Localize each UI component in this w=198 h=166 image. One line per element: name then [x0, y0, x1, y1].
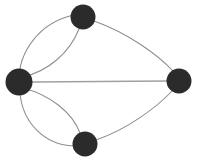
graph-edge-left-top: [22, 29, 79, 77]
graph-node-top: [71, 5, 96, 30]
graph-canvas: [0, 0, 198, 166]
graph-edge-left-bottom: [20, 92, 74, 146]
edges-layer: [19, 15, 173, 146]
graph-node-bottom: [73, 132, 98, 157]
graph-figure: [0, 0, 198, 166]
graph-edge-left-bottom: [23, 88, 80, 133]
graph-node-left: [6, 69, 33, 96]
graph-edge-bottom-right: [96, 91, 172, 140]
graph-node-right: [167, 69, 192, 94]
graph-edge-left-right: [32, 81, 167, 82]
graph-edge-top-right: [94, 21, 173, 71]
